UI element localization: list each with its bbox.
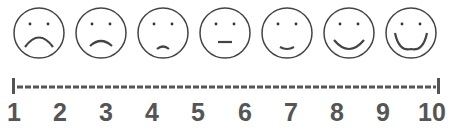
happy-face-icon [324, 8, 374, 58]
scale-label-9: 9 [376, 100, 390, 125]
scale-label-7: 7 [284, 100, 298, 125]
very-happy-face-icon [386, 8, 436, 58]
very-sad-face-icon [14, 8, 64, 58]
scale-label-3: 3 [99, 100, 113, 125]
scale-label-8: 8 [330, 100, 344, 125]
neutral-face-icon [200, 8, 250, 58]
scale-label-1: 1 [7, 100, 21, 125]
slightly-happy-face-icon [262, 8, 312, 58]
scale-label-5: 5 [191, 100, 205, 125]
slightly-sad-face-icon [138, 8, 188, 58]
scale-line [12, 78, 440, 94]
scale-label-4: 4 [145, 100, 159, 125]
scale-label-10: 10 [418, 100, 446, 125]
sad-face-icon [76, 8, 126, 58]
scale-label-2: 2 [53, 100, 67, 125]
scale-label-6: 6 [238, 100, 252, 125]
rating-scale-graphic [0, 0, 470, 136]
